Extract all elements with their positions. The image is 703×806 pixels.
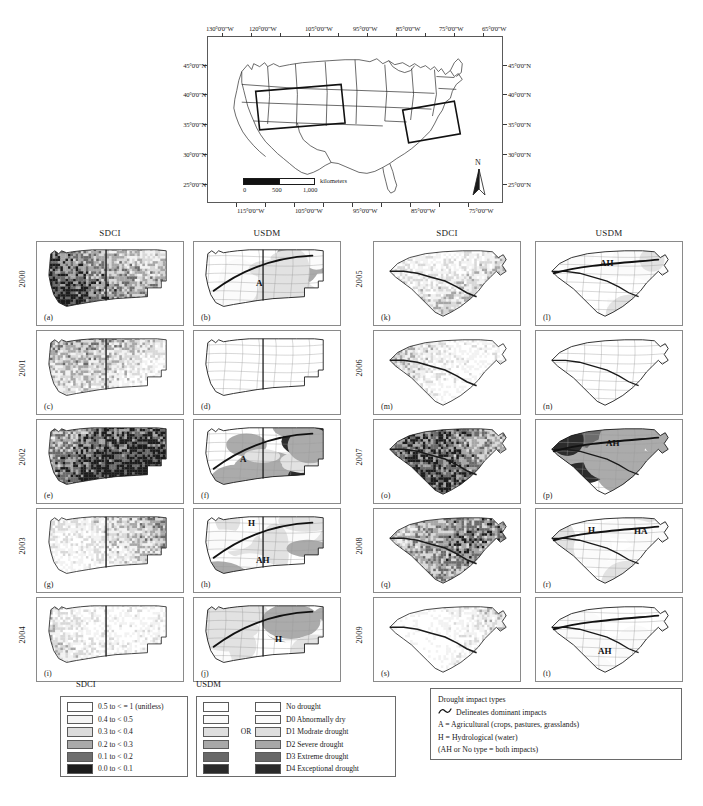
map-tick-top	[483, 33, 484, 37]
usdm-legend-label: D1 Modrate drought	[286, 728, 348, 736]
lon-label-top: 120°0'0"W	[249, 25, 276, 32]
impact-legend-delineate-label: Delineates dominant impacts	[456, 707, 547, 720]
lon-label-top: 130°0'0"W	[206, 25, 233, 32]
column-header-usdm: USDM	[193, 228, 341, 238]
lon-label-bottom: 115°0'0"W	[237, 207, 264, 214]
year-label: 2009	[355, 626, 366, 644]
drought-impact-annotation: A	[240, 454, 247, 464]
usdm-legend-swatch	[255, 715, 281, 725]
usdm-legend-row: D0 Abnormally dry	[203, 713, 395, 725]
map-tick-bottom	[439, 203, 440, 207]
sdci-legend-row: 0.3 to < 0.4	[67, 726, 187, 738]
map-tick-top	[338, 33, 339, 37]
drought-impact-legend: Drought impact types Delineates dominant…	[430, 688, 682, 760]
panel-label: (e)	[44, 491, 53, 500]
usdm-legend-swatch-alt	[203, 702, 229, 712]
usdm-map-panel: (r)HHA	[535, 508, 683, 593]
map-tick-top	[425, 33, 426, 37]
usdm-legend-swatch-alt	[203, 715, 229, 725]
usdm-legend-label: D0 Abnormally dry	[286, 716, 345, 724]
scale-bar-tick: 1,000	[303, 186, 317, 193]
usdm-legend-swatch-alt	[203, 764, 229, 774]
lon-label-top: 65°0'0"W	[482, 25, 506, 32]
usdm-map-panel: (l)AH	[535, 241, 683, 326]
sdci-legend-swatch	[67, 764, 93, 774]
north-arrow-label: N	[475, 158, 481, 167]
sdci-map-panel: (a)	[36, 241, 184, 326]
column-header-usdm: USDM	[535, 228, 683, 238]
usdm-legend-or-label: OR	[237, 727, 255, 736]
scale-bar-tick: 0	[243, 186, 246, 193]
sdci-map-panel: (c)	[36, 330, 184, 415]
sdci-legend-row: 0.4 to < 0.5	[67, 713, 187, 725]
lon-label-bottom: 95°0'0"W	[353, 207, 377, 214]
usdm-legend-label: D2 Severe drought	[286, 741, 343, 749]
usdm-map-panel: (f)A	[193, 419, 341, 504]
year-label: 2006	[355, 359, 366, 377]
delineation-squiggle-icon	[438, 707, 452, 720]
map-tick-right	[503, 124, 507, 125]
map-tick-bottom	[381, 203, 382, 207]
usdm-legend-label: D4 Exceptional drought	[286, 765, 359, 773]
study-area-carolinas-outline	[403, 101, 461, 142]
sdci-legend-swatch	[67, 740, 93, 750]
sdci-legend-label: 0.3 to < 0.4	[98, 728, 133, 736]
panel-label: (g)	[44, 580, 53, 589]
panel-label: (p)	[543, 491, 552, 500]
panel-label: (m)	[381, 402, 393, 411]
panel-label: (i)	[44, 669, 52, 678]
lon-label-top: 105°0'0"W	[305, 25, 332, 32]
impact-legend-delineate-row: Delineates dominant impacts	[438, 707, 681, 720]
drought-impact-annotation: AH	[256, 555, 270, 565]
lat-label-right: 25°0'0"N	[508, 181, 542, 188]
usdm-map-panel: (p)AH	[535, 419, 683, 504]
lat-label-left: 45°0'0"N	[176, 62, 206, 69]
usdm-map-panel: (n)	[535, 330, 683, 415]
map-tick-top	[280, 33, 281, 37]
map-tick-top	[309, 33, 310, 37]
sdci-legend-swatch	[67, 727, 93, 737]
sdci-map-panel: (m)	[373, 330, 521, 415]
panel-label: (b)	[201, 313, 210, 322]
scale-bar-unit: kilometers	[320, 177, 347, 184]
drought-impact-annotation: HA	[634, 526, 648, 536]
impact-legend-line-a: A = Agricultural (crops, pastures, grass…	[438, 719, 681, 732]
usdm-legend-title: USDM	[196, 679, 221, 689]
usdm-legend-row: D3 Extreme drought	[203, 751, 395, 763]
column-header-sdci: SDCI	[373, 228, 521, 238]
drought-impact-annotation: AH	[598, 646, 612, 656]
lon-label-bottom: 105°0'0"W	[295, 207, 322, 214]
drought-impact-annotation: AH	[606, 438, 620, 448]
panel-label: (f)	[201, 491, 209, 500]
scale-bar-graphic	[243, 178, 315, 185]
panel-label: (d)	[201, 402, 210, 411]
impact-legend-line-both: (AH or No type = both impacts)	[438, 744, 681, 757]
usdm-legend: No droughtD0 Abnormally dryORD1 Modrate …	[196, 696, 396, 777]
usdm-legend-row: ORD1 Modrate drought	[203, 726, 395, 738]
year-label: 2008	[355, 537, 366, 555]
sdci-map-panel: (s)	[373, 597, 521, 682]
impact-legend-title: Drought impact types	[438, 694, 681, 707]
map-tick-top	[396, 33, 397, 37]
usdm-legend-swatch	[255, 752, 281, 762]
sdci-legend-label: 0.1 to < 0.2	[98, 753, 133, 761]
usdm-map-panel: (j)H	[193, 597, 341, 682]
year-label: 2003	[18, 537, 29, 555]
year-label: 2001	[18, 359, 29, 377]
lat-label-left: 25°0'0"N	[176, 181, 206, 188]
panel-label: (t)	[543, 669, 551, 678]
sdci-legend: 0.5 to < = 1 (unitless)0.4 to < 0.50.3 t…	[60, 696, 188, 777]
map-tick-right	[503, 65, 507, 66]
usdm-legend-label: No drought	[286, 703, 321, 711]
panel-label: (c)	[44, 402, 53, 411]
map-tick-right	[503, 154, 507, 155]
lon-label-top: 95°0'0"W	[353, 25, 377, 32]
lat-label-right: 45°0'0"N	[508, 62, 542, 69]
north-arrow-icon: N	[470, 158, 488, 196]
lon-label-bottom: 75°0'0"W	[469, 207, 493, 214]
map-tick-top	[367, 33, 368, 37]
panel-label: (r)	[543, 580, 551, 589]
sdci-legend-swatch	[67, 715, 93, 725]
map-scale-bar: kilometers 0 500 1,000	[243, 178, 335, 197]
year-label: 2000	[18, 270, 29, 288]
